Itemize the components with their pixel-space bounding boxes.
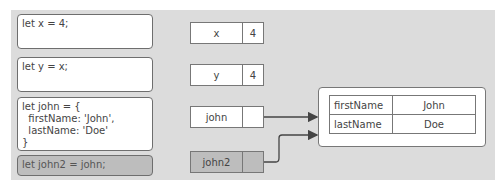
reference-arrows: [0, 0, 501, 188]
arrow-john2-to-object: [264, 135, 317, 162]
